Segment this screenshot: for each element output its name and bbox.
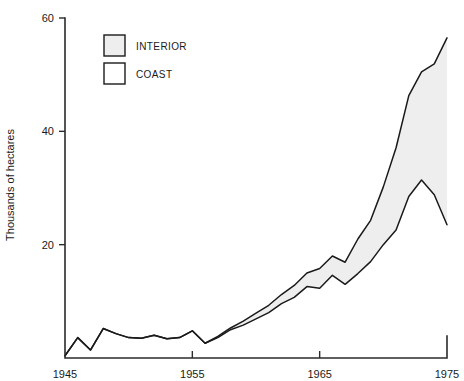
- x-tick-label: 1955: [180, 368, 204, 380]
- legend: INTERIORCOAST: [104, 35, 187, 84]
- area-chart: 204060 1945195519651975 Thousands of hec…: [0, 0, 464, 381]
- y-tick-label: 60: [42, 12, 54, 24]
- x-tick-label: 1965: [307, 368, 331, 380]
- legend-swatch-interior: [104, 35, 125, 56]
- y-tick-label: 20: [42, 239, 54, 251]
- y-axis-tick-labels: 204060: [42, 12, 54, 251]
- legend-swatch-coast: [104, 63, 125, 84]
- x-tick-label: 1945: [53, 368, 77, 380]
- y-tick-label: 40: [42, 125, 54, 137]
- plot-area: [65, 38, 447, 358]
- y-axis-title: Thousands of hectares: [4, 129, 16, 241]
- legend-label-coast: COAST: [136, 69, 172, 80]
- y-axis-ticks: [59, 18, 65, 245]
- x-axis-tick-labels: 1945195519651975: [53, 368, 459, 380]
- x-tick-label: 1975: [435, 368, 459, 380]
- legend-label-interior: INTERIOR: [136, 41, 187, 52]
- chart-container: 204060 1945195519651975 Thousands of hec…: [0, 0, 464, 381]
